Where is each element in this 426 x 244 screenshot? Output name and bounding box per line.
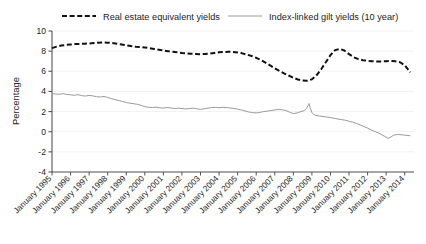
series-line-0 [52, 42, 410, 80]
legend-label-real-estate: Real estate equivalent yields [103, 12, 220, 22]
y-tick-label: 10 [36, 26, 46, 36]
y-tick-label: 4 [41, 86, 46, 96]
x-axis-ticks: January 1995January 1996January 1997Janu… [12, 172, 406, 216]
chart-legend: Real estate equivalent yields Index-link… [62, 12, 398, 22]
y-tick-label: 8 [41, 46, 46, 56]
chart-canvas: Real estate equivalent yields Index-link… [0, 0, 426, 244]
y-tick-label: 6 [41, 66, 46, 76]
yield-comparison-chart: Real estate equivalent yields Index-link… [0, 0, 426, 244]
legend-label-gilt: Index-linked gilt yields (10 year) [269, 12, 398, 22]
y-tick-label: -2 [38, 147, 46, 157]
y-tick-label: 0 [41, 127, 46, 137]
series-lines [52, 42, 410, 138]
y-axis-ticks: -4-20246810 [36, 26, 52, 177]
y-axis-title: Percentage [10, 77, 21, 125]
y-tick-label: 2 [41, 107, 46, 117]
